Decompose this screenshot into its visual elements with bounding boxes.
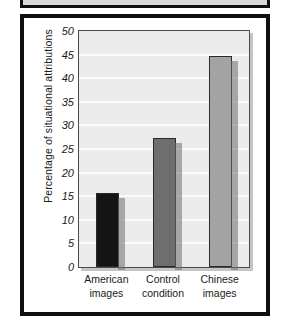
x-tick-label-line: Control [135,272,192,286]
y-tick-label: 5 [68,237,74,249]
y-tick-label: 35 [62,96,74,108]
y-tick-label: 50 [62,25,74,37]
y-tick-label: 15 [62,190,74,202]
figure-top-strip [20,0,270,8]
bar-shadow [231,61,238,270]
x-tick-label: Americanimages [78,272,135,300]
x-tick-label-line: American [78,272,135,286]
bar [96,193,119,267]
bar-shadow [175,143,182,270]
bar [153,138,176,267]
figure-root: Percentage of situational attributions 0… [0,0,284,330]
y-tick-label: 0 [68,261,74,273]
x-tick-label: Chineseimages [191,272,248,300]
y-tick-label: 30 [62,119,74,131]
y-tick-label: 20 [62,167,74,179]
bar-shadow [118,198,125,270]
y-tick-label: 25 [62,143,74,155]
x-tick-label-line: condition [135,286,192,300]
bar [209,56,232,267]
x-tick-label-line: images [78,286,135,300]
y-tick-label: 10 [62,214,74,226]
y-axis-title: Percentage of situational attributions [42,26,54,206]
x-tick-label: Controlcondition [135,272,192,300]
bar-chart: Percentage of situational attributions 0… [24,18,266,312]
y-tick-label: 40 [62,72,74,84]
plot-area: 05101520253035404550 [78,30,250,268]
x-tick-label-line: Chinese [191,272,248,286]
x-tick-label-line: images [191,286,248,300]
y-tick-label: 45 [62,49,74,61]
figure-frame: Percentage of situational attributions 0… [20,14,270,316]
